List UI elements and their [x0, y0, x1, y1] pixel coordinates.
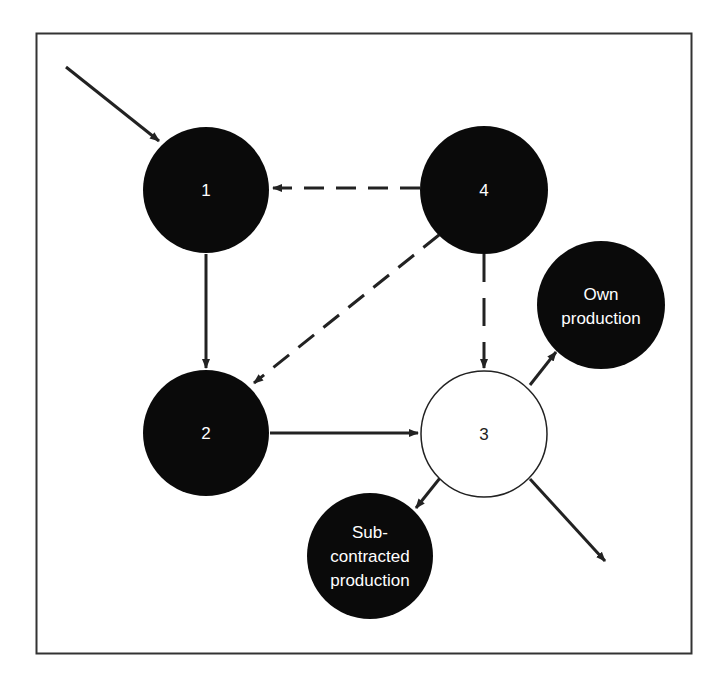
- edge-external-to-1: [66, 67, 159, 141]
- sub-label-line3: production: [330, 571, 409, 590]
- node-subcontracted-production: Sub- contracted production: [307, 493, 433, 619]
- node-2-label: 2: [201, 424, 210, 443]
- own-production-label-line2: production: [561, 309, 640, 328]
- node-own-production: Own production: [537, 241, 665, 369]
- node-3-label: 3: [479, 425, 488, 444]
- flow-diagram: 1 4 2 3 Own production Sub- contracted p…: [0, 0, 722, 686]
- edge-3-to-external: [530, 479, 605, 561]
- edge-3-to-own: [530, 352, 556, 385]
- edge-4-to-2-dashed: [254, 235, 439, 383]
- edge-3-to-sub: [416, 478, 440, 508]
- node-1: 1: [143, 127, 269, 253]
- node-4: 4: [420, 126, 548, 254]
- node-2: 2: [143, 370, 269, 496]
- node-1-label: 1: [201, 181, 210, 200]
- sub-label-line1: Sub-: [352, 523, 388, 542]
- own-production-label-line1: Own: [584, 285, 619, 304]
- node-3: 3: [421, 371, 547, 497]
- node-4-label: 4: [479, 181, 488, 200]
- sub-label-line2: contracted: [330, 547, 409, 566]
